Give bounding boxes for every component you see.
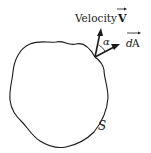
area-vector	[95, 47, 114, 57]
flux-diagram: Velocity V α d A S	[0, 0, 151, 153]
velocity-arrowhead-icon	[97, 28, 103, 36]
area-overarrow-head-icon	[138, 32, 141, 35]
velocity-label: Velocity	[74, 12, 117, 24]
velocity-overarrow-head-icon	[124, 8, 127, 11]
surface-label: S	[98, 119, 106, 133]
velocity-symbol: V	[117, 12, 127, 25]
closed-surface-outline	[10, 42, 108, 148]
area-A-symbol: A	[131, 37, 140, 49]
angle-alpha-label: α	[103, 36, 110, 47]
